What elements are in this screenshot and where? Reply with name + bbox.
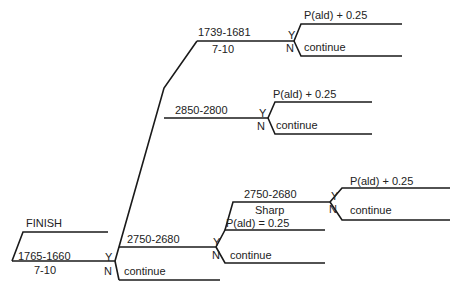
n5-sub: 7-10 bbox=[212, 44, 234, 55]
n4-no: N bbox=[257, 121, 265, 132]
branch-n5-yes bbox=[294, 24, 402, 41]
n2-no: N bbox=[212, 250, 220, 261]
n4-no-label: continue bbox=[276, 120, 318, 131]
n3-yes: Y bbox=[331, 191, 338, 202]
n4-yes-label: P(ald) + 0.25 bbox=[273, 89, 336, 100]
n5-yes: Y bbox=[288, 30, 295, 41]
n2-yes: Y bbox=[213, 237, 220, 248]
branch-n3-yes bbox=[330, 188, 450, 202]
decision-tree-diagram: FINISH 1765-1660 7-10 Y N continue 2750-… bbox=[0, 0, 453, 289]
n5-range: 1739-1681 bbox=[198, 27, 251, 38]
finish-label: FINISH bbox=[26, 218, 62, 229]
n1-no: N bbox=[104, 266, 112, 277]
n5-no: N bbox=[286, 43, 294, 54]
n5-no-label: continue bbox=[304, 42, 346, 53]
branch-n4-yes bbox=[268, 102, 372, 118]
n4-range: 2850-2800 bbox=[175, 105, 228, 116]
n4-yes: Y bbox=[259, 108, 266, 119]
n2-no-label: continue bbox=[230, 250, 272, 261]
branch-n2-yes bbox=[216, 230, 325, 247]
n2-yes-label: P(ald) = 0.25 bbox=[226, 218, 289, 229]
n3-no-label: continue bbox=[350, 205, 392, 216]
n3-yes-label: P(ald) + 0.25 bbox=[350, 176, 413, 187]
n3-sub: Sharp bbox=[255, 205, 284, 216]
n1-yes: Y bbox=[105, 252, 112, 263]
n1-sub: 7-10 bbox=[34, 265, 56, 276]
n2-range: 2750-2680 bbox=[127, 234, 180, 245]
n3-range: 2750-2680 bbox=[244, 189, 297, 200]
trunk-up bbox=[115, 41, 197, 261]
n1-range: 1765-1660 bbox=[18, 251, 71, 262]
n5-yes-label: P(ald) + 0.25 bbox=[304, 10, 367, 21]
branch-n1-no bbox=[115, 261, 119, 280]
n3-no: N bbox=[329, 204, 337, 215]
n1-no-label: continue bbox=[124, 266, 166, 277]
